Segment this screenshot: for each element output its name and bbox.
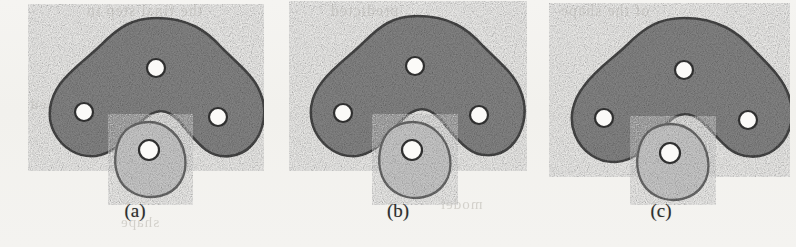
panel-c-drawing [532,0,790,205]
panel-a-caption: (a) [124,201,145,220]
oval-hole [660,143,680,163]
panel-b: (b) [269,0,527,247]
left-hole [334,104,352,122]
panel-a-drawing [6,0,264,205]
top-hole [675,61,693,79]
top-hole [147,59,165,77]
right-hole [209,108,227,126]
right-hole [739,111,757,129]
panel-a: (a) [6,0,264,247]
panel-c: (c) [532,0,790,247]
top-hole [406,57,424,75]
panel-b-drawing [269,0,527,205]
figure-root: the final step inpredictedof the shapea … [0,0,796,247]
oval-hole [139,140,159,160]
left-hole [75,103,93,121]
panel-c-caption: (c) [650,201,671,220]
figure-panel-row: (a)(b)(c) [0,0,796,247]
left-hole [595,109,613,127]
right-hole [470,106,488,124]
panel-b-caption: (b) [387,201,409,220]
oval-hole [402,140,422,160]
